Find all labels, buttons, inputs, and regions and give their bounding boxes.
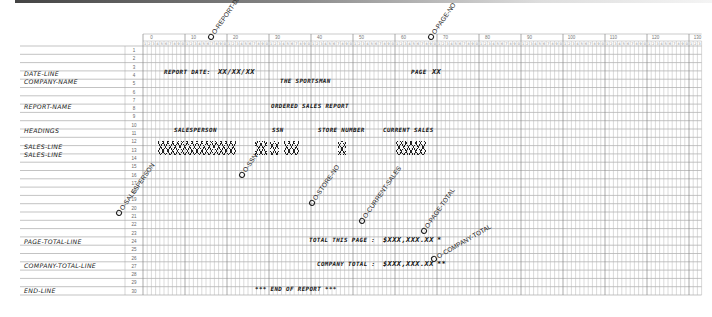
row-number: 30 <box>125 289 143 294</box>
svg-text:7: 7 <box>421 42 423 46</box>
svg-text:8: 8 <box>173 42 175 46</box>
label-headings: HEADINGS <box>24 127 59 134</box>
svg-text:1: 1 <box>648 42 650 46</box>
svg-text:4: 4 <box>367 42 369 46</box>
svg-text:6: 6 <box>291 42 293 46</box>
svg-text:3: 3 <box>362 42 364 46</box>
svg-text:3: 3 <box>194 42 196 46</box>
svg-text:2: 2 <box>358 42 360 46</box>
svg-text:9: 9 <box>262 42 264 46</box>
svg-text:0: 0 <box>602 42 604 46</box>
svg-text:2: 2 <box>442 42 444 46</box>
svg-text:7: 7 <box>631 42 633 46</box>
svg-text:1: 1 <box>270 42 272 46</box>
literal-end-of-report: *** END OF REPORT *** <box>255 286 337 292</box>
svg-text:9: 9 <box>598 42 600 46</box>
svg-text:5: 5 <box>371 42 373 46</box>
svg-text:8: 8 <box>341 42 343 46</box>
row-number: 29 <box>125 280 143 285</box>
svg-text:9: 9 <box>472 42 474 46</box>
svg-text:2: 2 <box>190 42 192 46</box>
svg-text:2: 2 <box>568 42 570 46</box>
column-tens-label: 0 <box>141 35 161 40</box>
mask-company-total: $XXX,XXX.XX <box>383 260 434 268</box>
field-current-sales <box>396 141 426 155</box>
svg-text:0: 0 <box>686 42 688 46</box>
svg-text:5: 5 <box>623 42 625 46</box>
svg-text:3: 3 <box>278 42 280 46</box>
column-tens-label: 80 <box>477 35 497 40</box>
svg-text:9: 9 <box>640 42 642 46</box>
svg-text:7: 7 <box>673 42 675 46</box>
svg-text:8: 8 <box>593 42 595 46</box>
svg-text:1: 1 <box>228 42 230 46</box>
svg-text:1: 1 <box>480 42 482 46</box>
column-tens-label: 100 <box>561 35 581 40</box>
svg-text:4: 4 <box>451 42 453 46</box>
svg-text:7: 7 <box>211 42 213 46</box>
svg-text:8: 8 <box>467 42 469 46</box>
svg-text:1: 1 <box>396 42 398 46</box>
svg-text:5: 5 <box>329 42 331 46</box>
svg-text:1: 1 <box>186 42 188 46</box>
column-tens-label: 130 <box>687 35 707 40</box>
svg-text:1: 1 <box>312 42 314 46</box>
svg-text:9: 9 <box>304 42 306 46</box>
row-number: 12 <box>125 139 143 144</box>
row-number: 1 <box>125 48 143 53</box>
heading-salesperson: SALESPERSON <box>174 127 217 133</box>
svg-text:2: 2 <box>652 42 654 46</box>
svg-text:0: 0 <box>434 42 436 46</box>
row-number: 20 <box>125 206 143 211</box>
literal-company: THE SPORTSMAN <box>280 78 331 84</box>
svg-text:7: 7 <box>463 42 465 46</box>
column-tens-label: 30 <box>267 35 287 40</box>
svg-text:8: 8 <box>551 42 553 46</box>
svg-text:0: 0 <box>476 42 478 46</box>
svg-text:8: 8 <box>425 42 427 46</box>
label-end-line: END-LINE <box>24 287 56 294</box>
svg-text:8: 8 <box>299 42 301 46</box>
svg-text:6: 6 <box>333 42 335 46</box>
field-ssn-part1 <box>255 141 267 155</box>
svg-text:4: 4 <box>493 42 495 46</box>
literal-star-1: * <box>437 236 442 244</box>
svg-text:9: 9 <box>682 42 684 46</box>
svg-text:7: 7 <box>547 42 549 46</box>
literal-star-2: ** <box>437 260 446 268</box>
mask-page-no: XX <box>432 68 441 76</box>
svg-text:3: 3 <box>530 42 532 46</box>
row-number: 25 <box>125 247 143 252</box>
svg-text:2: 2 <box>526 42 528 46</box>
svg-text:0: 0 <box>644 42 646 46</box>
svg-text:0: 0 <box>560 42 562 46</box>
svg-text:2: 2 <box>400 42 402 46</box>
svg-text:8: 8 <box>257 42 259 46</box>
svg-text:5: 5 <box>665 42 667 46</box>
svg-text:3: 3 <box>152 42 154 46</box>
svg-text:6: 6 <box>543 42 545 46</box>
row-number: 2 <box>125 56 143 61</box>
row-number: 15 <box>125 164 143 169</box>
column-tens-label: 90 <box>519 35 539 40</box>
row-number: 11 <box>125 131 143 136</box>
row-number: 13 <box>125 148 143 153</box>
svg-text:3: 3 <box>614 42 616 46</box>
svg-text:7: 7 <box>337 42 339 46</box>
svg-text:2: 2 <box>274 42 276 46</box>
row-number: 26 <box>125 256 143 261</box>
svg-text:9: 9 <box>178 42 180 46</box>
svg-text:8: 8 <box>509 42 511 46</box>
row-number: 22 <box>125 222 143 227</box>
svg-text:3: 3 <box>320 42 322 46</box>
svg-text:1: 1 <box>438 42 440 46</box>
row-number: 21 <box>125 214 143 219</box>
svg-text:8: 8 <box>677 42 679 46</box>
svg-text:4: 4 <box>157 42 159 46</box>
svg-text:0: 0 <box>350 42 352 46</box>
literal-report-date: REPORT DATE: <box>164 69 211 75</box>
svg-text:7: 7 <box>295 42 297 46</box>
heading-store-number: STORE NUMBER <box>318 127 365 133</box>
svg-text:0: 0 <box>392 42 394 46</box>
svg-text:6: 6 <box>375 42 377 46</box>
